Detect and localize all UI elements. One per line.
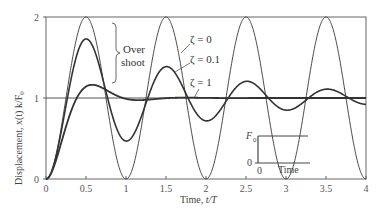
x-tick-label: 0.5	[80, 183, 93, 194]
chart: 00.511.522.533.54012 Over shoot ζ = 0 ζ …	[0, 0, 384, 215]
inset-zero-x: 0	[257, 165, 262, 176]
inset-zero-y: 0	[247, 157, 252, 168]
x-tick-label: 1.5	[160, 183, 173, 194]
overshoot-brace	[112, 23, 120, 83]
curve-zeta-1	[46, 85, 366, 179]
zeta1-label: ζ = 1	[190, 76, 212, 89]
x-tick-label: 2	[204, 183, 209, 194]
overshoot-label-1: Over	[123, 43, 145, 55]
zeta01-leader	[175, 63, 190, 72]
zeta0-label: ζ = 0	[190, 33, 212, 46]
inset-time-label: Time	[278, 164, 299, 175]
x-tick-label: 2.5	[240, 183, 253, 194]
y-tick-label: 0	[34, 174, 39, 185]
step-input-inset: F 0 0 0 Time	[245, 130, 310, 176]
x-tick-label: 3	[284, 183, 289, 194]
x-tick-label: 3.5	[320, 183, 333, 194]
inset-F-label: F	[245, 130, 253, 141]
zeta1-leader	[194, 89, 199, 98]
x-tick-label: 4	[364, 183, 369, 194]
x-tick-label: 0	[44, 183, 49, 194]
overshoot-label-2: shoot	[121, 56, 145, 68]
x-axis-label: Time, t/T	[180, 194, 218, 205]
y-axis-label: Displacement, x(t) k/F0	[13, 91, 26, 185]
y-tick-label: 1	[34, 93, 39, 104]
zeta01-label: ζ = 0.1	[190, 53, 220, 66]
zeta0-leader	[181, 44, 190, 53]
inset-F-sub: 0	[253, 136, 257, 144]
y-tick-label: 2	[34, 12, 39, 23]
x-tick-label: 1	[124, 183, 129, 194]
